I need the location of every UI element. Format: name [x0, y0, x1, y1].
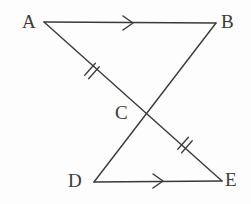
geometry-figure: A B C D E: [0, 0, 251, 204]
vertex-label-c: C: [115, 103, 128, 122]
vertex-label-e: E: [225, 170, 237, 189]
segment-ae: [44, 22, 222, 181]
vertex-label-d: D: [68, 171, 82, 190]
vertex-label-b: B: [221, 12, 234, 31]
segment-bd: [94, 23, 216, 182]
vertex-label-a: A: [22, 12, 36, 31]
tick-marks-ce: [178, 137, 193, 152]
segments-group: [44, 22, 222, 182]
segment-de: [94, 181, 222, 182]
segment-ab: [44, 22, 216, 23]
